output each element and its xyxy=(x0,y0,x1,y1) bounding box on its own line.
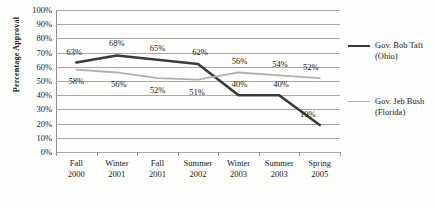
data-label-s2-p7: 52% xyxy=(303,63,319,72)
y-axis-tick-label: 50% xyxy=(36,77,52,86)
data-label-s2-p4: 51% xyxy=(189,87,205,96)
x-axis-label-2: Winter2001 xyxy=(105,158,128,180)
y-axis-tick-label: 80% xyxy=(36,34,52,43)
data-label-s1-p4: 62% xyxy=(192,48,208,57)
x-axis-tick-mark xyxy=(259,152,260,156)
data-label-s2-p6: 54% xyxy=(272,60,288,69)
data-label-s2-p2: 56% xyxy=(111,80,127,89)
x-axis-category-labels: Fall2000Winter2001Fall2001Summer2002Wint… xyxy=(56,158,340,192)
x-axis-tick-mark xyxy=(56,152,57,156)
x-axis-label-year: 2001 xyxy=(105,169,128,180)
x-axis-tick-mark xyxy=(218,152,219,156)
data-label-s1-p5: 40% xyxy=(232,80,248,89)
x-axis-label-season: Winter xyxy=(105,158,128,169)
x-axis-tick-mark xyxy=(137,152,138,156)
x-axis-label-season: Fall xyxy=(149,158,166,169)
x-axis-label-year: 2003 xyxy=(227,169,250,180)
x-axis-label-year: 2001 xyxy=(149,169,166,180)
y-axis-tick-label: 90% xyxy=(36,20,52,29)
x-axis-label-year: 2002 xyxy=(184,169,213,180)
x-axis-tick-mark xyxy=(340,152,341,156)
legend-label-state: (Ohio) xyxy=(375,51,434,62)
y-axis-tick-label: 10% xyxy=(36,134,52,143)
y-axis-title: Percentage Approval xyxy=(12,0,21,115)
legend-entry-2: Gov. Jeb Bush(Florida) xyxy=(348,96,434,117)
y-axis-tick-label: 60% xyxy=(36,63,52,72)
series-lines xyxy=(56,10,340,152)
y-axis-tick-label: 30% xyxy=(36,105,52,114)
x-axis-label-4: Summer2002 xyxy=(184,158,213,180)
data-label-s1-p6: 40% xyxy=(273,80,289,89)
x-axis-tick-mark xyxy=(97,152,98,156)
y-axis-tick-label: 0% xyxy=(41,148,52,157)
x-axis-label-season: Fall xyxy=(68,158,85,169)
legend-entry-1: Gov. Bob Taft(Ohio) xyxy=(348,40,434,61)
legend-line-swatch xyxy=(348,45,370,47)
x-axis-label-season: Spring xyxy=(308,158,331,169)
x-axis-label-year: 2005 xyxy=(308,169,331,180)
legend-label-name: Gov. Bob Taft xyxy=(375,40,434,51)
x-axis-label-year: 2000 xyxy=(68,169,85,180)
x-axis-tick-mark xyxy=(299,152,300,156)
data-label-s2-p1: 58% xyxy=(68,76,84,85)
legend-label-name: Gov. Jeb Bush xyxy=(375,96,434,107)
x-axis-label-season: Summer xyxy=(265,158,294,169)
x-axis-label-season: Winter xyxy=(227,158,250,169)
x-axis-label-5: Winter2003 xyxy=(227,158,250,180)
data-label-s1-p1: 63% xyxy=(66,47,82,56)
x-axis-tick-mark xyxy=(178,152,179,156)
x-axis-label-7: Spring2005 xyxy=(308,158,331,180)
y-axis-tick-label: 20% xyxy=(36,119,52,128)
x-axis-label-3: Fall2001 xyxy=(149,158,166,180)
x-axis-label-season: Summer xyxy=(184,158,213,169)
legend-line-swatch xyxy=(348,101,370,102)
data-label-s2-p5: 56% xyxy=(232,57,248,66)
gridline xyxy=(56,152,340,153)
data-label-s1-p3: 65% xyxy=(150,43,166,52)
legend-label-state: (Florida) xyxy=(375,107,434,118)
plot-area: 100%90%80%70%60%50%40%30%20%10%0% 63%68%… xyxy=(56,10,340,152)
data-label-s2-p3: 52% xyxy=(150,86,166,95)
x-axis-label-year: 2003 xyxy=(265,169,294,180)
y-axis-tick-label: 40% xyxy=(36,91,52,100)
x-axis-label-6: Summer2003 xyxy=(265,158,294,180)
data-label-s1-p7: 19% xyxy=(300,110,316,119)
data-label-s1-p2: 68% xyxy=(109,39,125,48)
y-axis-tick-label: 70% xyxy=(36,48,52,57)
approval-rating-line-chart: Percentage Approval 100%90%80%70%60%50%4… xyxy=(0,0,434,207)
x-axis-label-1: Fall2000 xyxy=(68,158,85,180)
y-axis-tick-label: 100% xyxy=(32,6,52,15)
